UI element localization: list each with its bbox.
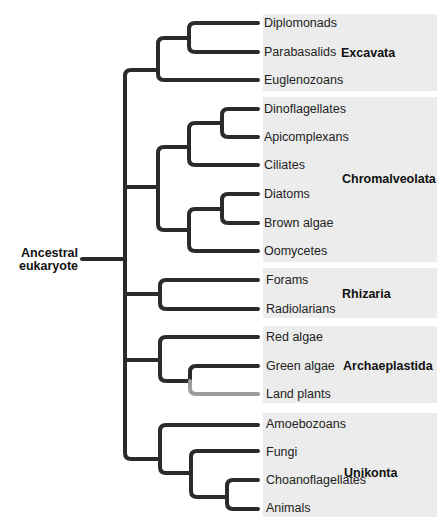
root-label-line2: eukaryote bbox=[18, 260, 78, 273]
leaf-diatoms: Diatoms bbox=[264, 187, 310, 201]
leaf-dinoflagellates: Dinoflagellates bbox=[264, 102, 346, 116]
leaf-forams: Forams bbox=[266, 273, 308, 287]
leaf-radiolarians: Radiolarians bbox=[266, 302, 335, 316]
group-label-chromalveolata: Chromalveolata bbox=[342, 172, 436, 186]
leaf-amoebozoans: Amoebozoans bbox=[266, 417, 346, 431]
leaf-diplomonads: Diplomonads bbox=[264, 16, 337, 30]
leaf-animals: Animals bbox=[266, 501, 310, 515]
leaf-ciliates: Ciliates bbox=[264, 158, 305, 172]
leaf-oomycetes: Oomycetes bbox=[264, 244, 327, 258]
leaf-red-algae: Red algae bbox=[266, 330, 323, 344]
group-label-rhizaria: Rhizaria bbox=[342, 287, 391, 301]
group-label-unikonta: Unikonta bbox=[344, 466, 397, 480]
group-label-excavata: Excavata bbox=[341, 46, 395, 60]
land-plants-branch bbox=[190, 381, 258, 394]
leaf-apicomplexans: Apicomplexans bbox=[264, 130, 349, 144]
leaf-green-algae: Green algae bbox=[266, 359, 335, 373]
leaf-fungi: Fungi bbox=[266, 445, 297, 459]
phylogenetic-tree-diagram: Ancestral eukaryote Diplomonads Parabasa… bbox=[0, 0, 447, 526]
root-label: Ancestral eukaryote bbox=[18, 247, 78, 273]
leaf-land-plants: Land plants bbox=[266, 387, 331, 401]
leaf-euglenozoans: Euglenozoans bbox=[264, 73, 343, 87]
leaf-parabasalids: Parabasalids bbox=[264, 45, 336, 59]
leaf-brown-algae: Brown algae bbox=[264, 216, 334, 230]
root-vertical bbox=[125, 70, 158, 459]
group-label-archaeplastida: Archaeplastida bbox=[343, 359, 433, 373]
